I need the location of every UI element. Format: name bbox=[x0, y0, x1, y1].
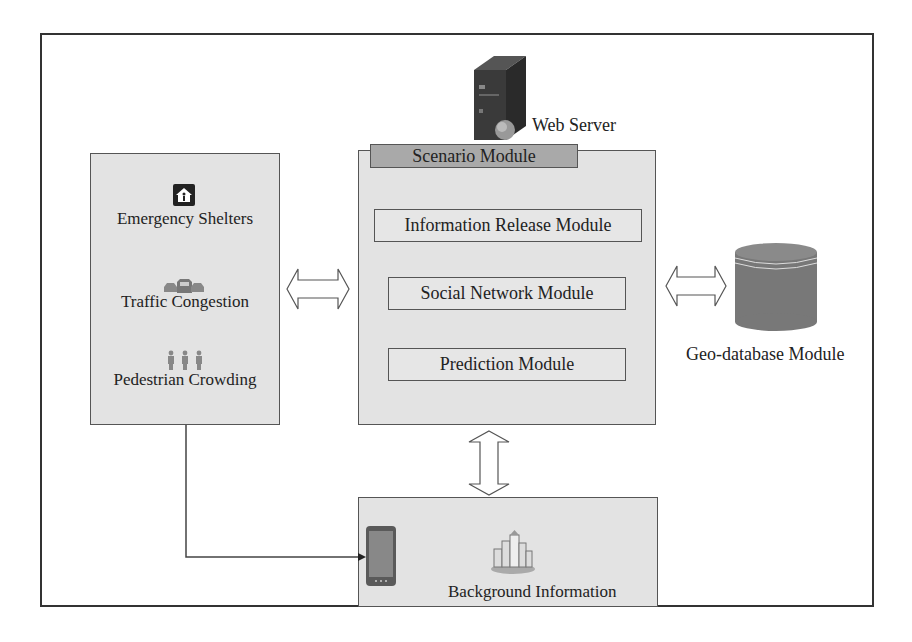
connector-arrow bbox=[0, 0, 912, 642]
